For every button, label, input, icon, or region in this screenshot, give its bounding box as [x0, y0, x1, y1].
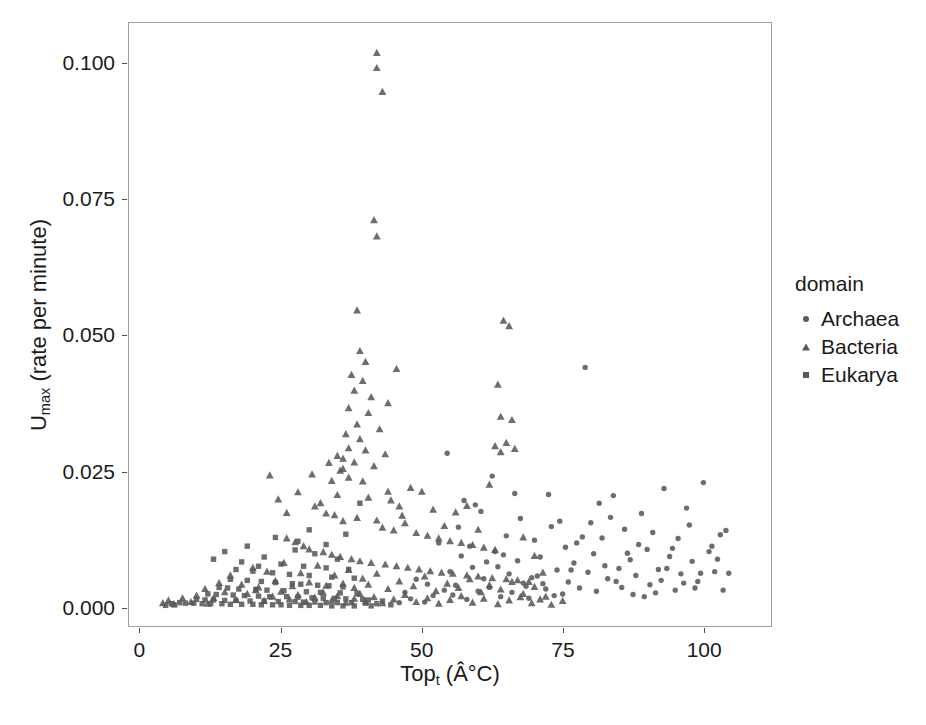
data-point [622, 527, 627, 532]
data-point [305, 578, 313, 585]
data-point [491, 546, 499, 553]
data-point [478, 509, 483, 514]
data-point [588, 520, 593, 525]
data-point [715, 556, 720, 561]
data-point [183, 600, 188, 605]
data-point [425, 581, 430, 586]
data-point [633, 573, 638, 578]
legend-item-bacteria[interactable]: Bacteria [795, 333, 920, 361]
data-point [446, 537, 454, 544]
data-point [381, 560, 389, 567]
data-point [384, 585, 392, 592]
data-point [535, 573, 540, 578]
legend-item-eukarya[interactable]: Eukarya [795, 361, 920, 389]
data-point [329, 603, 334, 608]
data-point [278, 561, 283, 566]
data-point [393, 365, 401, 372]
x-tick-label: 75 [523, 639, 603, 660]
data-point [242, 593, 247, 598]
data-point [259, 579, 264, 584]
data-point [452, 508, 460, 515]
data-point [619, 585, 624, 590]
data-point [497, 585, 505, 592]
data-point [695, 579, 700, 584]
data-point [502, 439, 510, 446]
data-point [670, 546, 675, 551]
data-point [307, 527, 312, 532]
data-point [692, 585, 697, 590]
data-point [401, 519, 409, 526]
data-point [698, 571, 703, 576]
data-point [294, 488, 302, 495]
legend-item-archaea[interactable]: Archaea [795, 305, 920, 333]
data-point [367, 559, 375, 566]
data-point [270, 602, 275, 607]
data-point [376, 425, 384, 432]
data-point [283, 509, 291, 516]
data-point [519, 533, 527, 540]
data-point [270, 570, 275, 575]
data-point [474, 572, 482, 579]
x-axis-title-units: (Â°C) [440, 661, 500, 686]
data-point [491, 442, 499, 449]
data-point [490, 473, 495, 478]
data-point [560, 591, 565, 596]
series-eukarya [163, 501, 394, 609]
data-point [250, 568, 255, 573]
data-point [720, 587, 725, 592]
data-point [506, 571, 511, 576]
data-point [480, 544, 488, 551]
x-tick-mark [422, 628, 423, 633]
data-point [529, 575, 534, 580]
data-point [473, 502, 478, 507]
data-point [342, 430, 350, 437]
data-point [201, 585, 209, 592]
data-point [256, 564, 261, 569]
data-point [300, 542, 308, 549]
data-point [352, 603, 357, 608]
data-point [373, 516, 381, 523]
data-point [214, 592, 219, 597]
data-point [250, 602, 255, 607]
data-point [318, 590, 323, 595]
data-point [543, 586, 548, 591]
data-point [364, 494, 372, 501]
data-point [256, 593, 261, 598]
data-point [647, 582, 652, 587]
data-point [653, 590, 658, 595]
data-point [319, 548, 327, 555]
data-point [498, 594, 503, 599]
figure-caption [52, 706, 882, 720]
x-tick-label: 50 [382, 639, 462, 660]
data-point [636, 542, 641, 547]
data-point [368, 603, 373, 608]
data-point [511, 445, 519, 452]
x-tick-mark [563, 628, 564, 633]
data-point [379, 524, 387, 531]
data-point [664, 566, 669, 571]
y-axis-title-base: U [26, 415, 51, 431]
data-point [551, 593, 556, 598]
data-point [443, 579, 451, 586]
data-point [495, 564, 500, 569]
data-point [599, 535, 604, 540]
data-point [681, 580, 686, 585]
data-point [345, 404, 353, 411]
data-point [350, 458, 358, 465]
data-point [393, 562, 401, 569]
data-point [456, 524, 461, 529]
data-point [380, 598, 385, 603]
data-point [390, 595, 398, 602]
data-point [639, 511, 644, 516]
data-point [494, 381, 502, 388]
data-point [384, 488, 392, 495]
data-point [298, 581, 303, 586]
x-tick-mark [281, 628, 282, 633]
data-point [328, 551, 336, 558]
data-point [512, 491, 517, 496]
data-point [424, 532, 432, 539]
data-point [557, 518, 562, 523]
data-point [494, 600, 502, 607]
data-point [407, 484, 415, 491]
y-axis-title-units: (rate per minute) [26, 218, 51, 387]
